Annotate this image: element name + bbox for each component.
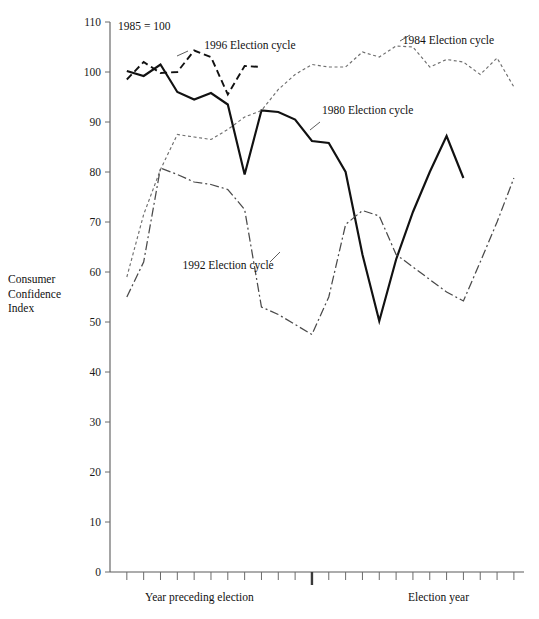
y-axis-title-line-1: Consumer <box>8 272 94 287</box>
y-tick-label: 70 <box>90 216 102 228</box>
y-axis-title-line-3: Index <box>8 301 94 316</box>
series-annotation-1996: 1996 Election cycle <box>204 39 295 52</box>
y-tick-label: 30 <box>90 416 102 428</box>
y-tick-label: 110 <box>84 16 101 28</box>
y-axis-title: Consumer Confidence Index <box>8 272 94 316</box>
x-axis-ticks <box>127 572 514 585</box>
y-tick-label: 90 <box>90 116 102 128</box>
y-tick-label: 0 <box>95 566 101 578</box>
axes-group <box>110 22 524 572</box>
y-tick-label: 10 <box>90 516 102 528</box>
base-year-note: 1985 = 100 <box>118 20 171 32</box>
x-axis-label-left: Year preceding election <box>145 591 254 604</box>
chart-container: 0102030405060708090100110 1996 Election … <box>0 0 539 619</box>
series-annotations-group: 1996 Election cycle1984 Election cycle19… <box>182 34 494 272</box>
series-annotation-1992: 1992 Election cycle <box>182 259 273 272</box>
leader-lines-group <box>177 35 410 262</box>
y-tick-label: 100 <box>84 66 102 78</box>
series-annotation-1980: 1980 Election cycle <box>322 104 413 117</box>
y-tick-label: 80 <box>90 166 102 178</box>
y-tick-label: 20 <box>90 466 102 478</box>
y-axis-title-line-2: Confidence <box>8 287 94 302</box>
y-axis-ticks <box>105 22 110 572</box>
y-tick-label: 40 <box>90 366 102 378</box>
series-annotation-1984: 1984 Election cycle <box>403 34 494 47</box>
leader-line-1992 <box>270 252 280 262</box>
series-lines-group <box>127 46 514 335</box>
leader-line-1996 <box>177 51 188 56</box>
leader-line-1980 <box>310 122 320 130</box>
series-line-1992 <box>127 168 514 335</box>
y-tick-label: 50 <box>90 316 102 328</box>
x-axis-label-right: Election year <box>408 591 469 604</box>
